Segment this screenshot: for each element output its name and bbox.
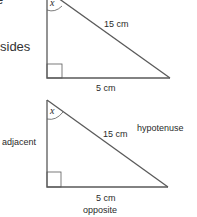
hypotenuse-length-bottom: 15 cm (103, 130, 128, 139)
triangle-bottom (47, 100, 168, 187)
clipped-text: e (0, 0, 3, 6)
angle-x-label-top: x (50, 0, 54, 8)
sides-text: sides (0, 40, 30, 53)
opposite-label: opposite (83, 206, 117, 215)
hypotenuse-label: hypotenuse (137, 124, 184, 133)
base-length-top: 5 cm (96, 84, 116, 93)
triangle-top (47, 0, 170, 78)
base-length-bottom: 5 cm (96, 194, 116, 203)
triangles-diagram (0, 0, 197, 217)
angle-x-label-bottom: x (50, 106, 54, 116)
hypotenuse-length-top: 15 cm (104, 20, 129, 29)
adjacent-label: adjacent (2, 138, 36, 147)
